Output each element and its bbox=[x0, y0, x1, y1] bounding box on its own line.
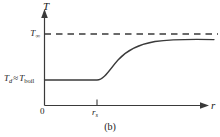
x-axis-title: r bbox=[211, 100, 215, 111]
origin-label: 0 bbox=[40, 107, 45, 116]
figure-caption: (b) bbox=[0, 122, 220, 132]
y-axis bbox=[41, 9, 48, 106]
t-boil-subscript: boil bbox=[24, 77, 34, 84]
temperature-profile-figure: T r T∞ Td≈Tboil 0 rs (b) bbox=[0, 0, 220, 137]
label-t-infinity: T∞ bbox=[30, 29, 40, 39]
y-axis-title: T bbox=[43, 1, 49, 12]
x-axis-arrowhead bbox=[200, 102, 209, 109]
t-infinity-subscript: ∞ bbox=[35, 32, 40, 39]
x-axis bbox=[45, 102, 210, 109]
label-t-droplet: Td≈Tboil bbox=[4, 74, 34, 84]
rs-subscript: s bbox=[96, 111, 99, 118]
temperature-profile-curve bbox=[45, 39, 215, 80]
plot-canvas bbox=[0, 0, 220, 137]
tick-label-rs: rs bbox=[92, 108, 98, 118]
